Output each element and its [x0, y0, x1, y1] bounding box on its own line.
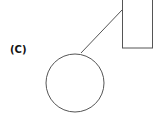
diagram-canvas — [0, 0, 165, 121]
rectangle-shape — [123, 0, 153, 48]
circle-shape — [46, 54, 104, 112]
connector-line — [81, 10, 122, 53]
